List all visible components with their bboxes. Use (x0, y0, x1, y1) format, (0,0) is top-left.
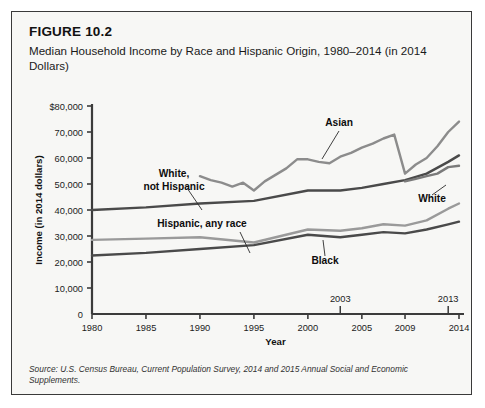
y-tick-label: 30,000 (55, 232, 83, 242)
y-tick-label: 60,000 (55, 154, 83, 164)
x-axis-title: Year (265, 336, 286, 347)
series-label-text: Asian (325, 117, 353, 128)
series-line-hispanic-any-race (92, 204, 459, 243)
x-tick-label: 1990 (190, 323, 211, 333)
y-tick-label: 70,000 (55, 128, 83, 138)
y-tick-label: $80,000 (49, 102, 83, 112)
line-chart: $80,00070,00060,00050,00040,00030,00020,… (12, 12, 473, 396)
series-label-text: not Hispanic (143, 181, 204, 192)
series-label-text: White, (159, 168, 190, 179)
figure-panel: FIGURE 10.2 Median Household Income by R… (11, 11, 472, 395)
x-tick-label: 1980 (82, 323, 103, 333)
series-label-black: Black (311, 240, 339, 266)
series-line-asian (200, 122, 459, 191)
leader-line (323, 240, 325, 256)
x-tick-label: 1995 (244, 323, 265, 333)
y-tick-label: 50,000 (55, 180, 83, 190)
y-tick-label: 0 (78, 310, 83, 320)
x-tick-label: 2009 (395, 323, 416, 333)
source-note: Source: U.S. Census Bureau, Current Popu… (29, 364, 454, 386)
annotation-label: 2003 (330, 294, 351, 304)
x-tick-label: 1985 (136, 323, 157, 333)
series-label-white: White (418, 185, 446, 204)
x-tick-label: 2000 (298, 323, 319, 333)
x-tick-label: 2005 (352, 323, 373, 333)
series-label-text: Black (311, 255, 339, 266)
series-label-text: Hispanic, any race (157, 218, 247, 229)
y-tick-label: 20,000 (55, 258, 83, 268)
y-axis-title: Income (in 2014 dollars) (33, 155, 44, 264)
annotation-label: 2013 (438, 294, 459, 304)
leader-line (322, 131, 339, 159)
x-tick-label: 2014 (449, 323, 470, 333)
y-tick-label: 10,000 (55, 284, 83, 294)
y-tick-label: 40,000 (55, 206, 83, 216)
chart-plot-area: $80,00070,00060,00050,00040,00030,00020,… (12, 12, 473, 396)
